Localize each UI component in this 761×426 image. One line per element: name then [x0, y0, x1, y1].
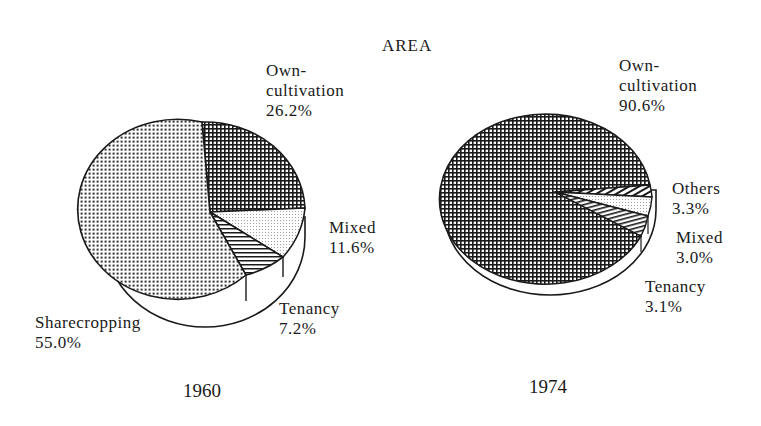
pie-1960 — [78, 119, 305, 327]
label-value: 3.3% — [672, 199, 709, 218]
label-value: 55.0% — [35, 333, 81, 352]
pie-1974 — [439, 114, 656, 295]
label-name: Mixed — [329, 218, 376, 237]
label-name: Others — [672, 179, 720, 198]
label-mixed-1974: Mixed 3.0% — [676, 228, 723, 268]
label-own-cultivation-1974: Own- cultivation 90.6% — [619, 56, 697, 116]
label-value: 3.0% — [676, 248, 713, 267]
label-name: Own- cultivation — [266, 61, 344, 100]
label-name: Sharecropping — [35, 313, 141, 332]
label-tenancy-1974: Tenancy 3.1% — [645, 277, 706, 317]
label-sharecropping-1960: Sharecropping 55.0% — [35, 313, 141, 353]
label-value: 90.6% — [619, 96, 665, 115]
label-value: 26.2% — [266, 101, 312, 120]
label-own-cultivation-1960: Own- cultivation 26.2% — [266, 61, 344, 121]
label-value: 7.2% — [279, 319, 316, 338]
label-name: Tenancy — [645, 277, 706, 296]
label-name: Own- cultivation — [619, 56, 697, 95]
year-label-1974: 1974 — [529, 376, 567, 398]
label-others-1974: Others 3.3% — [672, 179, 720, 219]
label-value: 3.1% — [645, 297, 682, 316]
chart-title: AREA — [382, 36, 432, 56]
label-tenancy-1960: Tenancy 7.2% — [279, 299, 340, 339]
label-name: Mixed — [676, 228, 723, 247]
year-label-1960: 1960 — [183, 380, 221, 402]
slice-own-cultivation-1960 — [202, 122, 305, 212]
label-name: Tenancy — [279, 299, 340, 318]
label-mixed-1960: Mixed 11.6% — [329, 218, 376, 258]
label-value: 11.6% — [329, 238, 375, 257]
